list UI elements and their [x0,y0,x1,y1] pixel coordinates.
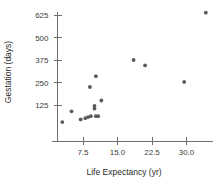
data-point [100,99,104,103]
data-point [132,58,136,62]
x-tick-label: 22.5 [144,148,160,157]
plot-svg: 125250375500625 7.515.022.530.0 Life Exp… [0,0,216,181]
y-axis-title: Gestation (days) [3,41,13,104]
data-points-layer [60,11,207,124]
data-point [143,64,147,68]
y-tick-label: 375 [35,56,49,65]
x-tick-label: 15.0 [110,148,126,157]
data-point [96,114,100,118]
data-point [94,74,98,78]
data-point [88,85,92,89]
data-point [89,114,93,118]
data-point [79,118,83,122]
scatter-chart: 125250375500625 7.515.022.530.0 Life Exp… [0,0,216,181]
x-axis-title: Life Expectancy (yr) [86,167,161,177]
x-tick-label: 7.5 [77,148,89,157]
y-axis: 125250375500625 [35,11,61,141]
x-tick-label: 30.0 [179,148,195,157]
y-tick-label: 125 [35,101,49,110]
y-tick-label: 250 [35,79,49,88]
data-point [204,11,208,15]
x-ticks: 7.515.022.530.0 [77,137,194,157]
data-point [182,80,186,84]
data-point [60,120,64,124]
x-axis: 7.515.022.530.0 [52,137,214,157]
y-tick-label: 625 [35,11,49,20]
data-point [70,109,74,113]
data-point [93,104,97,108]
y-tick-label: 500 [35,34,49,43]
